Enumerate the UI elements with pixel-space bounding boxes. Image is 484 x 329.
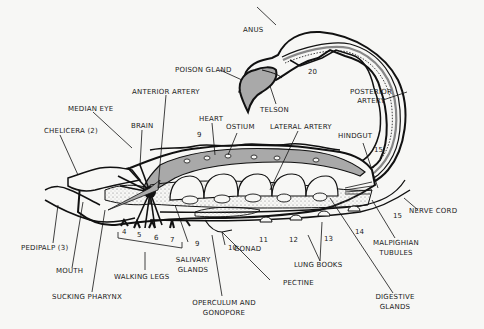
scorpion-illustration xyxy=(0,0,484,329)
label-malpighian-1: MALPIGHIAN xyxy=(368,239,424,247)
segment-9-ventral: 9 xyxy=(195,240,199,248)
label-poison-gland: POISON GLAND xyxy=(175,66,232,74)
segment-15-ventral: 15 xyxy=(393,212,402,220)
label-salivary-2: GLANDS xyxy=(168,266,218,274)
segment-11: 11 xyxy=(259,236,268,244)
label-anterior-artery: ANTERIOR ARTERY xyxy=(132,88,200,96)
segment-13: 13 xyxy=(324,235,333,243)
label-pedipalp: PEDIPALP (3) xyxy=(21,244,68,252)
label-operculum-1: OPERCULUM AND xyxy=(186,299,262,307)
label-ostium: OSTIUM xyxy=(226,123,255,131)
segment-6: 6 xyxy=(154,234,158,242)
label-digestive-1: DIGESTIVE xyxy=(370,293,420,301)
segment-10: 10 xyxy=(228,244,237,252)
label-lung-books: LUNG BOOKS xyxy=(294,261,342,269)
label-median-eye: MEDIAN EYE xyxy=(68,105,113,113)
segment-20: 20 xyxy=(308,68,317,76)
label-nerve-cord: NERVE CORD xyxy=(409,207,457,215)
segment-12: 12 xyxy=(289,236,298,244)
label-walking-legs: WALKING LEGS xyxy=(114,273,169,281)
label-hindgut: HINDGUT xyxy=(338,132,372,140)
label-pectine: PECTINE xyxy=(283,279,314,287)
label-brain: BRAIN xyxy=(131,122,153,130)
label-gonad: GONAD xyxy=(234,245,261,253)
label-operculum-2: GONOPORE xyxy=(186,309,262,317)
segment-15-dorsal: 15 xyxy=(374,146,383,154)
segment-14: 14 xyxy=(355,228,364,236)
scorpion-anatomy-diagram: ANUS POISON GLAND TELSON ANTERIOR ARTERY… xyxy=(0,0,484,329)
label-posterior-artery-1: POSTERIOR xyxy=(346,88,396,96)
label-salivary-1: SALIVARY xyxy=(168,256,218,264)
label-telson: TELSON xyxy=(260,106,289,114)
label-chelicera: CHELICERA (2) xyxy=(44,127,98,135)
label-mouth: MOUTH xyxy=(56,267,83,275)
label-malpighian-2: TUBULES xyxy=(368,249,424,257)
label-posterior-artery-2: ARTERY xyxy=(346,97,396,105)
label-digestive-2: GLANDS xyxy=(370,303,420,311)
label-anus: ANUS xyxy=(243,26,263,34)
label-sucking-pharynx: SUCKING PHARYNX xyxy=(52,293,122,301)
segment-9-dorsal: 9 xyxy=(197,131,201,139)
label-lateral-artery: LATERAL ARTERY xyxy=(270,123,332,131)
segment-5: 5 xyxy=(137,231,141,239)
segment-7: 7 xyxy=(170,236,174,244)
segment-4: 4 xyxy=(122,228,126,236)
label-heart: HEART xyxy=(199,115,223,123)
